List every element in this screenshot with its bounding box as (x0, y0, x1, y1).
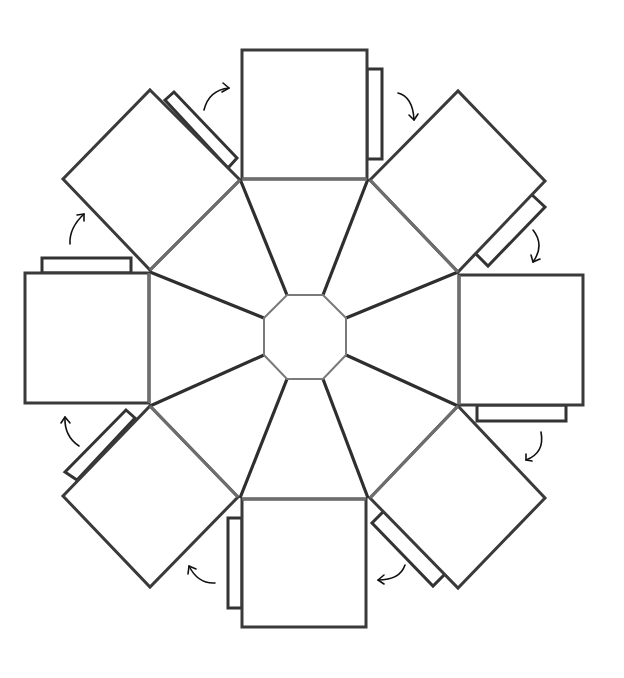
panel-outline (242, 50, 367, 179)
panel-top (242, 50, 367, 179)
glue-tab-right (477, 405, 566, 421)
glue-tab-left (42, 258, 131, 273)
panel-outline (25, 273, 149, 403)
panel-outline (242, 499, 366, 627)
panel-outline (459, 275, 583, 405)
octagon-fold-template (0, 0, 624, 678)
panel-bottom (242, 499, 366, 627)
panel-right (459, 275, 583, 405)
glue-tab-top (367, 69, 382, 159)
panel-left (25, 273, 149, 403)
glue-tab-bottom (228, 518, 242, 608)
center-octagon (264, 295, 346, 379)
